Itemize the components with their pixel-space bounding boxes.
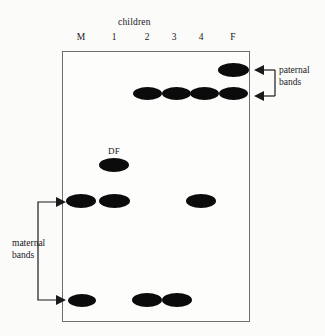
paternal-bands-label: paternal bands	[279, 65, 310, 88]
band-F-r1	[218, 63, 249, 77]
maternal-upper-arrowhead	[56, 197, 66, 207]
paternal-upper-arrowhead	[254, 65, 264, 75]
band-3-r2	[162, 87, 191, 100]
children-group-label: children	[118, 17, 151, 27]
lane-label-m: M	[71, 32, 91, 42]
maternal-bands-label-line1: maternal	[12, 238, 45, 250]
lane-label-4: 4	[191, 32, 211, 42]
band-1-df	[99, 158, 129, 172]
band-4-r2	[190, 87, 219, 100]
band-2-r2	[133, 87, 162, 100]
dna-fingerprint-figure: children M 1 2 3 4 F DF maternal bands p…	[0, 0, 325, 336]
lane-label-2: 2	[137, 32, 157, 42]
lane-label-3: 3	[164, 32, 184, 42]
maternal-bands-label: maternal bands	[12, 238, 45, 261]
paternal-bands-label-line1: paternal	[279, 65, 310, 77]
paternal-bands-arrows	[253, 62, 277, 104]
lane-label-f: F	[223, 32, 243, 42]
paternal-bands-label-line2: bands	[279, 77, 310, 89]
maternal-bands-label-line2: bands	[12, 250, 45, 262]
band-M-r5	[68, 294, 96, 307]
band-4-r4	[186, 194, 216, 208]
maternal-lower-arrowhead	[56, 295, 66, 305]
lane-label-1: 1	[104, 32, 124, 42]
band-F-r2	[219, 87, 248, 100]
df-label: DF	[101, 146, 127, 156]
band-2-r5	[132, 293, 162, 307]
band-3-r5	[162, 293, 192, 307]
band-M-r4	[66, 194, 96, 208]
paternal-lower-arrowhead	[254, 91, 264, 101]
band-1-r4	[99, 194, 130, 208]
